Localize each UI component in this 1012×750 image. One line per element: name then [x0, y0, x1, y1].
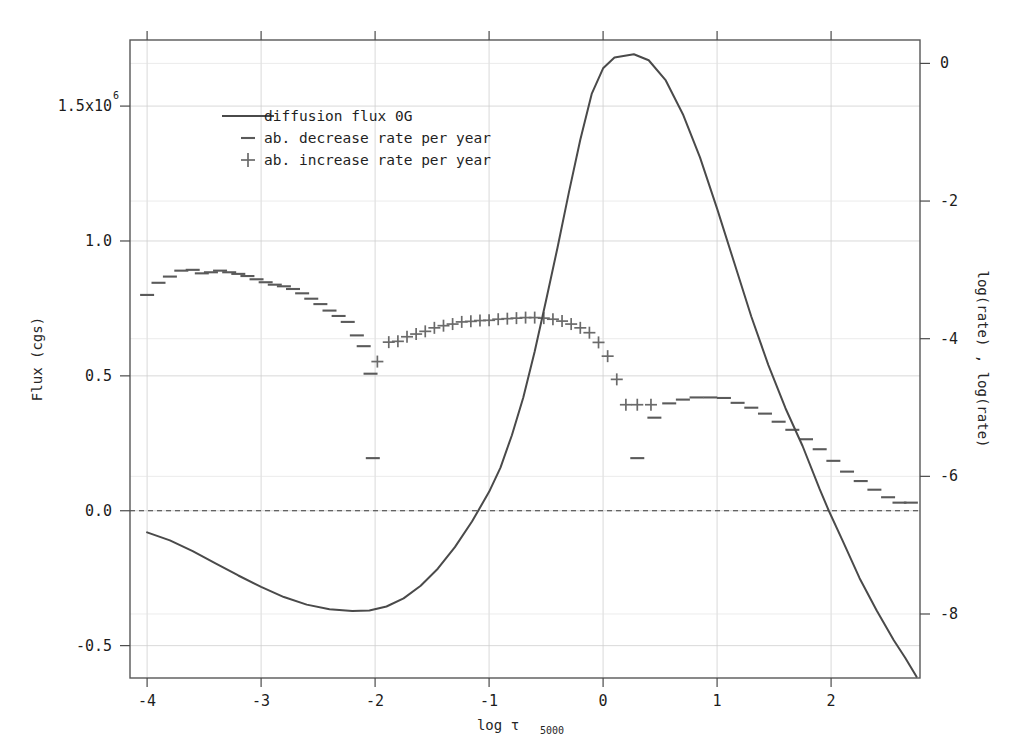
y-tick-label-right: -4 — [940, 330, 958, 348]
y-tick-exponent: 6 — [113, 90, 119, 101]
y-tick-label-left: 0.5 — [85, 367, 112, 385]
x-tick-label: -3 — [252, 692, 270, 710]
y-axis-label-right: log(rate) , log(rate) — [975, 270, 991, 447]
y-axis-label-left: Flux (cgs) — [29, 317, 45, 401]
y-tick-label-left: 0.0 — [85, 502, 112, 520]
y-tick-label-right: 0 — [940, 54, 949, 72]
x-tick-label: 2 — [827, 692, 836, 710]
y-tick-label-right: -2 — [940, 192, 958, 210]
plot-background — [0, 0, 1012, 750]
y-tick-label-right: -6 — [940, 467, 958, 485]
diffusion-flux-plot: -4-3-2-10121.5x1061.00.50.0-0.50-2-4-6-8… — [0, 0, 1012, 750]
x-axis-label: log τ — [477, 717, 519, 733]
y-tick-label-left: -0.5 — [76, 637, 112, 655]
x-tick-label: 1 — [713, 692, 722, 710]
legend-label: diffusion flux 0G — [264, 108, 412, 124]
y-tick-label-right: -8 — [940, 605, 958, 623]
y-tick-label-left: 1.5x10 — [58, 97, 112, 115]
x-tick-label: 0 — [599, 692, 608, 710]
y-tick-label-left: 1.0 — [85, 232, 112, 250]
x-tick-label: -1 — [480, 692, 498, 710]
legend-label: ab. increase rate per year — [264, 152, 491, 168]
x-axis-label-subscript: 5000 — [540, 725, 564, 736]
legend-label: ab. decrease rate per year — [264, 130, 491, 146]
chart-figure: -4-3-2-10121.5x1061.00.50.0-0.50-2-4-6-8… — [0, 0, 1012, 750]
x-tick-label: -4 — [138, 692, 156, 710]
x-tick-label: -2 — [366, 692, 384, 710]
